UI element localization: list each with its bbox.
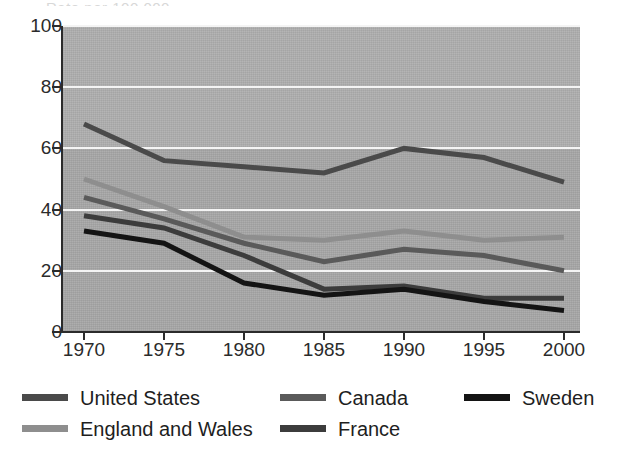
- x-tick-label: 1975: [129, 340, 199, 360]
- legend-label: England and Wales: [80, 417, 253, 441]
- legend-item-canada[interactable]: Canada: [280, 383, 408, 412]
- y-tick-mark: [52, 25, 61, 27]
- x-tick-label: 1990: [369, 340, 439, 360]
- legend-row: United StatesCanadaSweden: [22, 383, 614, 412]
- chart-figure: Rate per 100,000 020406080100 1970197519…: [0, 0, 620, 451]
- x-tick-label: 1980: [209, 340, 279, 360]
- series-lines: [62, 26, 580, 332]
- legend-swatch-icon: [464, 394, 510, 401]
- legend-item-united-states[interactable]: United States: [22, 383, 200, 412]
- legend-label: United States: [80, 386, 200, 410]
- chart-legend: United StatesCanadaSwedenEngland and Wal…: [22, 383, 614, 445]
- y-tick-mark: [52, 270, 61, 272]
- legend-label: Sweden: [522, 386, 594, 410]
- axis-line-left: [61, 26, 63, 332]
- x-axis: 1970197519801985199019952000: [62, 340, 580, 366]
- series-line-united-states: [84, 124, 564, 182]
- legend-item-france[interactable]: France: [280, 414, 400, 443]
- plot-area: [62, 26, 580, 332]
- legend-label: France: [338, 417, 400, 441]
- series-line-england-and-wales: [84, 179, 564, 240]
- legend-swatch-icon: [280, 425, 326, 432]
- cut-off-title: Rate per 100,000: [46, 0, 216, 6]
- legend-row: England and WalesFrance: [22, 414, 614, 443]
- y-tick-mark: [52, 209, 61, 211]
- legend-item-sweden[interactable]: Sweden: [464, 383, 594, 412]
- legend-item-england-and-wales[interactable]: England and Wales: [22, 414, 253, 443]
- x-tick-label: 1985: [289, 340, 359, 360]
- legend-swatch-icon: [280, 394, 326, 401]
- legend-swatch-icon: [22, 394, 68, 401]
- x-tick-label: 1995: [449, 340, 519, 360]
- x-tick-label: 1970: [49, 340, 119, 360]
- series-line-canada: [84, 197, 564, 270]
- y-tick-mark: [52, 331, 61, 333]
- y-axis-ticks: 020406080100: [0, 26, 62, 332]
- x-tick-label: 2000: [529, 340, 599, 360]
- y-tick-mark: [52, 147, 61, 149]
- legend-label: Canada: [338, 386, 408, 410]
- legend-swatch-icon: [22, 425, 68, 432]
- y-tick-mark: [52, 86, 61, 88]
